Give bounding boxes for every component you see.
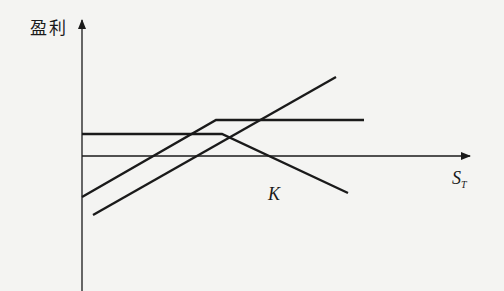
series-rising-diagonal: [93, 77, 336, 215]
series-rising-then-flat: [82, 120, 364, 197]
payoff-lines: [82, 77, 364, 215]
series-flat-then-falling: [82, 134, 348, 193]
x-axis-label: ST: [452, 168, 467, 190]
x-axis-label-sub: T: [461, 179, 467, 190]
payoff-diagram: [0, 0, 504, 291]
x-axis-label-main: S: [452, 168, 461, 188]
strike-label: K: [268, 184, 280, 205]
y-axis-label: 盈利: [30, 14, 68, 39]
